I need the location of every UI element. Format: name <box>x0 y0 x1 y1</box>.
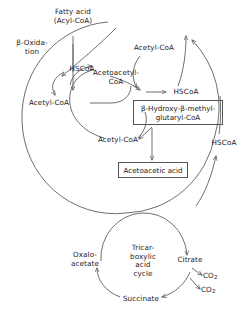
outer-circle-right-arc <box>126 40 219 213</box>
hscoa-mid-to-outer-arrow <box>178 36 186 86</box>
co2-to-co2-arrow <box>190 278 200 289</box>
beta-oxidation-label: β-Oxida-tion <box>16 39 47 56</box>
hscoa-left-label: HSCoA <box>70 65 95 74</box>
succinate-label: Succinate <box>123 295 159 304</box>
hscoa-mid-label: HSCoA <box>174 88 199 97</box>
citrate-to-succinate-arc <box>162 272 190 297</box>
acetoacetic-acid-box: Acetoacetic acid <box>118 162 188 178</box>
co2-lower-label: CO2 <box>201 286 215 296</box>
succinate-to-oxaloacetate-arc <box>97 268 120 297</box>
acetyl-coa-left-label: Acetyl-CoA <box>29 99 69 108</box>
acetoacetyl-coa-label: Acetoacetyl-CoA <box>93 69 139 86</box>
co2-upper-label: CO2 <box>203 272 217 282</box>
fatty-acid-label: Fatty acid(Acyl-CoA) <box>54 8 93 25</box>
oxaloacetate-label: Oxalo-acetate <box>71 251 99 268</box>
acetyl-coa-left-to-inner-loop <box>90 86 131 103</box>
tca-center-label: Tricar-boxylicacidcycle <box>130 244 156 278</box>
hmg-coa-box: β-Hydroxy-β-methyl-glutaryl-CoA <box>133 100 223 125</box>
acetyl-coa-center-label: Acetyl-CoA <box>98 136 138 145</box>
hscoa-right-label: HSCoA <box>212 139 237 148</box>
citrate-to-co2-arrow <box>192 268 202 275</box>
acetyl-coa-top-label: Acetyl-CoA <box>134 44 174 53</box>
metabolic-pathway-diagram: Fatty acid(Acyl-CoA) β-Oxida-tion HSCoA … <box>0 0 252 312</box>
hmg-to-acetyl-coa-center-arrow <box>139 127 152 139</box>
citrate-label: Citrate <box>177 256 202 265</box>
hscoa-right-incoming-arrow <box>196 156 216 206</box>
